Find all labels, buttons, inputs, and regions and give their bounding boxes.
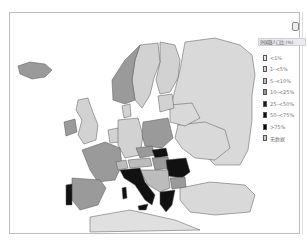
legend-swatch (263, 89, 267, 95)
region-north-africa (90, 210, 200, 232)
legend-item[interactable]: 无数据 (263, 133, 294, 145)
island-sardinia[interactable] (122, 187, 127, 199)
legend-title: 外国籍人口比 (%) (258, 38, 306, 46)
legend-label: >75% (270, 124, 285, 130)
legend-item[interactable]: 1–<5% (263, 64, 294, 76)
legend-label: 50–<75% (270, 112, 294, 118)
legend-label: 1–<5% (270, 66, 288, 72)
country-austria[interactable] (128, 158, 152, 168)
legend-swatch (263, 101, 267, 107)
legend-label: 25–<50% (270, 101, 294, 107)
legend-swatch (263, 112, 267, 118)
legend-item[interactable]: 50–<75% (263, 110, 294, 122)
country-iceland[interactable] (18, 62, 52, 79)
country-czechia[interactable] (136, 146, 155, 158)
legend-item[interactable]: >75% (263, 121, 294, 133)
legend-swatch (263, 124, 267, 130)
country-spain[interactable] (72, 178, 106, 210)
legend-label: 无数据 (270, 135, 285, 142)
legend-item[interactable]: 5–<10% (263, 75, 294, 87)
legend-swatch (263, 66, 267, 72)
pin-icon[interactable] (292, 22, 299, 31)
europe-choropleth-map[interactable] (0, 0, 307, 243)
country-slovakia[interactable] (152, 148, 168, 158)
legend-label: 5–<10% (270, 78, 291, 84)
legend-item[interactable]: <1% (263, 52, 294, 64)
country-turkey[interactable] (180, 182, 255, 215)
island-sicily[interactable] (138, 204, 148, 210)
country-romania[interactable] (166, 158, 190, 178)
legend-item[interactable]: 10–<25% (263, 87, 294, 99)
country-greece[interactable] (160, 190, 175, 212)
legend-swatch (263, 78, 267, 84)
country-switzerland[interactable] (116, 160, 128, 170)
country-ireland[interactable] (64, 119, 77, 136)
legend-swatch (263, 135, 267, 141)
country-bulgaria[interactable] (170, 177, 186, 189)
legend-item[interactable]: 25–<50% (263, 98, 294, 110)
country-poland[interactable] (142, 118, 173, 148)
legend-items: <1% 1–<5% 5–<10% 10–<25% 25–<50% 50–<75%… (263, 52, 294, 144)
country-portugal[interactable] (66, 184, 72, 205)
legend-label: 10–<25% (270, 89, 294, 95)
country-denmark[interactable] (122, 104, 131, 118)
legend-label: <1% (270, 55, 282, 61)
country-uk[interactable] (76, 98, 98, 144)
legend-swatch (263, 55, 267, 61)
